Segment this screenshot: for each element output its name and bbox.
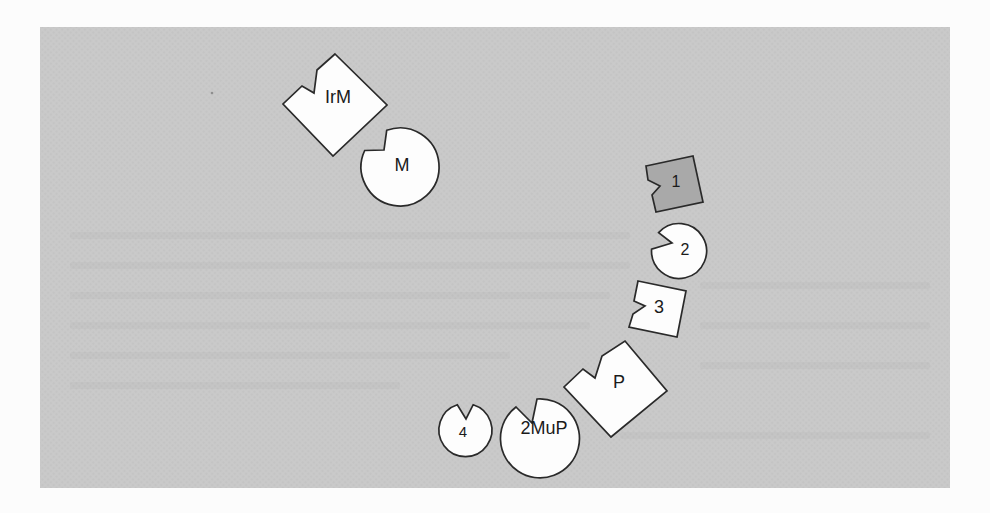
shape-m-label: M — [395, 155, 410, 175]
halftone-texture-overlay — [40, 27, 950, 488]
shape-irm-label: IrM — [325, 87, 351, 107]
shape-1-label: 1 — [672, 173, 681, 190]
shapes-diagram: IrM M 1 2 3 P 4 — [0, 0, 990, 513]
shape-2mup-outline — [500, 399, 579, 478]
scan-speck — [211, 92, 214, 95]
shape-2mup-label: 2MuP — [520, 418, 567, 438]
shape-1: 1 — [646, 156, 703, 212]
shape-3-label: 3 — [654, 297, 664, 317]
shape-2: 2 — [652, 224, 707, 279]
scanned-figure-page: IrM M 1 2 3 P 4 — [0, 0, 990, 513]
shape-p-label: P — [613, 372, 625, 392]
shape-2-outline — [652, 224, 707, 279]
shape-2-label: 2 — [681, 241, 690, 258]
shape-2mup: 2MuP — [500, 399, 579, 478]
shape-4-label: 4 — [459, 423, 467, 440]
